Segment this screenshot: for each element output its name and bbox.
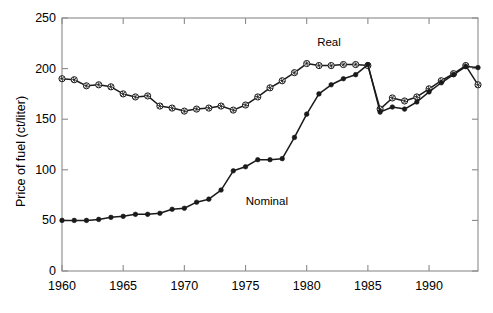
data-point [158,211,163,216]
y-tick-label: 50 [42,213,56,227]
x-tick-label: 1980 [293,279,321,293]
data-point [243,164,248,169]
data-point [366,62,371,67]
data-point [280,156,285,161]
series-label-nominal: Nominal [246,195,288,207]
data-point [60,218,65,223]
data-point [170,207,175,212]
data-point [476,65,481,70]
y-tick-label: 250 [35,11,56,25]
data-point [341,76,346,81]
fuel-price-chart: Price of fuel (ct/liter) 250200150100500… [0,0,493,313]
y-tick-label: 150 [35,112,56,126]
plot-frame [62,18,478,271]
series-label-real: Real [317,36,341,48]
data-point [451,72,456,77]
y-tick-label: 0 [49,264,56,278]
data-point [378,110,383,115]
series-real [59,60,481,114]
data-point [109,215,114,220]
data-point [268,157,273,162]
data-point [427,90,432,95]
data-point [353,72,358,77]
data-point [219,188,224,193]
data-point [304,112,309,117]
y-axis-title: Price of fuel (ct/liter) [14,95,28,206]
data-point [145,212,150,217]
data-point [84,218,89,223]
data-point [121,214,126,219]
data-point [133,212,138,217]
y-tick-label: 100 [35,163,56,177]
x-tick-label: 1985 [354,279,382,293]
data-point [182,206,187,211]
data-point [292,135,297,140]
data-point [231,169,236,174]
x-tick-label: 1975 [232,279,260,293]
data-point [439,80,444,85]
y-tick-label: 200 [35,62,56,76]
data-point [402,107,407,112]
chart-plot-area [0,0,493,313]
x-tick-label: 1990 [415,279,443,293]
data-point [255,157,260,162]
data-point [194,200,199,205]
data-point [390,105,395,110]
data-point [415,100,420,105]
data-point [96,217,101,222]
x-tick-label: 1965 [109,279,137,293]
data-point [329,82,334,87]
data-point [72,218,77,223]
data-point [207,197,212,202]
x-tick-label: 1960 [48,279,76,293]
x-tick-label: 1970 [170,279,198,293]
data-point [463,64,468,69]
data-point [317,92,322,97]
